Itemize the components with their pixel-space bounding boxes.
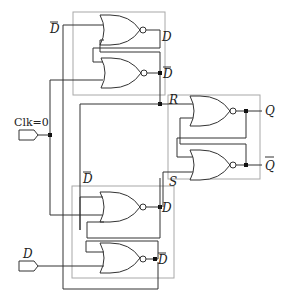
bottom-dbar-junction-dot	[153, 257, 157, 261]
junction-dot	[158, 71, 162, 75]
bottom-dbar-in-label: D	[82, 172, 93, 186]
bottom-dbar-out-label: D	[157, 253, 168, 267]
q-junction-dot	[244, 109, 248, 113]
qbar-junction-dot	[244, 163, 248, 167]
q-output-label: Q	[265, 104, 275, 118]
clk-input-pin[interactable]	[19, 130, 50, 140]
r-label: R	[168, 93, 178, 107]
sr-nor-gate-bottom	[190, 150, 236, 180]
clk-input-label: Clk=0	[14, 116, 49, 129]
clk-bus-wire	[50, 80, 103, 215]
bottom-nor-gate-2	[100, 243, 146, 273]
s-label: S	[169, 175, 177, 189]
qbar-output-label: Q	[265, 159, 275, 173]
top-nor-gate-1	[100, 15, 146, 45]
circuit-diagram: D D D R S Q Q Clk=0 D D D D	[0, 0, 286, 301]
sr-nor-gate-top	[190, 96, 236, 126]
d-input-label: D	[22, 247, 33, 261]
bottom-nor-gate-1	[100, 192, 146, 222]
d-input-pin[interactable]	[19, 261, 104, 271]
top-d-out-label: D	[161, 30, 172, 44]
top-dbar-out-label: D	[162, 67, 173, 81]
top-dbar-in-label: D	[49, 22, 60, 36]
bottom-d-out-label: D	[161, 201, 172, 215]
bottom-dbar-in-wire	[80, 197, 103, 230]
top-nor-gate-2	[101, 58, 147, 88]
